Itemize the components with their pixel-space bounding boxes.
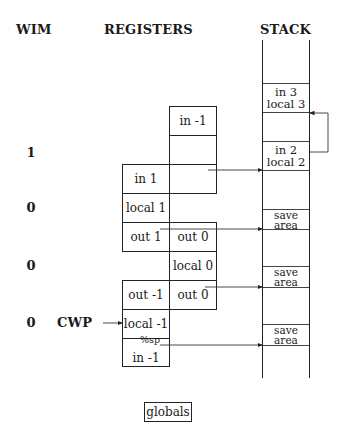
stack-frame-line: area <box>263 277 309 287</box>
registers-header: REGISTERS <box>104 22 193 37</box>
stack-divider <box>263 345 309 346</box>
wim-header: WIM <box>16 22 52 37</box>
stack-divider <box>263 112 309 113</box>
register-cell: local 0 <box>169 251 217 281</box>
register-cell: in -1 <box>169 106 217 136</box>
cwp-label: CWP <box>57 315 92 330</box>
stack-divider <box>263 141 309 142</box>
stack-frame-line: area <box>263 335 309 345</box>
wim-bit-3: 0 <box>25 258 37 273</box>
wim-bit-2: 0 <box>25 200 37 215</box>
register-cell: local 1 <box>122 193 170 223</box>
stack-save-area-1: save area <box>263 210 309 230</box>
stack-divider <box>263 83 309 84</box>
register-cell: out 1 <box>122 222 170 252</box>
wim-bit-1: 1 <box>25 145 37 160</box>
register-cell: in 1 <box>122 164 170 194</box>
register-cell <box>169 135 217 165</box>
stack-frame-3: in 3 local 3 <box>263 86 309 110</box>
wim-bit-4: 0 <box>25 315 37 330</box>
register-cell: out -1 <box>122 280 170 310</box>
stack-save-area-3: save area <box>263 325 309 345</box>
register-cell: out 0 <box>169 222 217 252</box>
sp-label: %sp <box>140 335 160 345</box>
stack-divider <box>263 229 309 230</box>
frame-link-arrow <box>310 113 328 152</box>
stack-right-edge <box>309 40 310 378</box>
register-cell: out 0 <box>169 280 217 310</box>
stack-frame-line: local 2 <box>263 156 309 168</box>
stack-save-area-2: save area <box>263 267 309 287</box>
stack-frame-line: local 3 <box>263 98 309 110</box>
stack-frame-2: in 2 local 2 <box>263 144 309 168</box>
stack-divider <box>263 170 309 171</box>
stack-header: STACK <box>260 22 311 37</box>
globals-box: globals <box>144 402 192 422</box>
stack-divider <box>263 287 309 288</box>
register-cell <box>169 164 217 194</box>
